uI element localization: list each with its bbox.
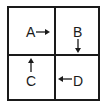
quadrant-label-b: B: [73, 25, 82, 39]
quadrant-label-c: C: [26, 74, 36, 88]
quadrant-label-d: D: [73, 74, 83, 88]
arrow-right-icon: [36, 28, 50, 36]
arrow-up-icon: [27, 58, 35, 72]
horizontal-divider: [9, 54, 98, 56]
quadrant-grid: [7, 6, 100, 101]
arrow-down-icon: [74, 39, 82, 53]
quadrant-label-a: A: [26, 25, 35, 39]
arrow-left-icon: [58, 75, 72, 83]
